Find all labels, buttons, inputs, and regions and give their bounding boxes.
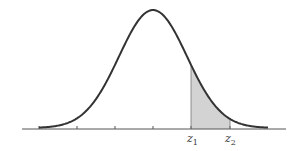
- label-z2: z2: [224, 132, 236, 147]
- normal-curve-diagram: z1z2: [0, 0, 302, 151]
- label-z1: z1: [186, 132, 198, 147]
- z-labels: z1z2: [186, 132, 236, 147]
- bell-curve: [39, 10, 268, 128]
